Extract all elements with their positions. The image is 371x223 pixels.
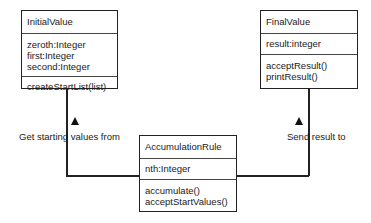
- class-name: AccumulationRule: [140, 136, 236, 158]
- direction-arrow-icon: [295, 117, 303, 125]
- class-methods: accumulate() acceptStartValues(): [140, 179, 236, 212]
- class-final-value: FinalValue result:integer acceptResult()…: [260, 10, 358, 89]
- direction-arrow-icon: [71, 117, 79, 125]
- class-methods: acceptResult() printResult(): [261, 54, 357, 87]
- class-accumulation-rule: AccumulationRule nth:Integer accumulate(…: [139, 135, 237, 212]
- class-name: FinalValue: [261, 11, 357, 33]
- attribute: first:Integer: [27, 50, 112, 61]
- method: printResult(): [266, 71, 352, 82]
- association-label-left: Get starting values from: [19, 131, 120, 142]
- method: acceptResult(): [266, 60, 352, 71]
- class-methods: createStartList(list): [22, 76, 117, 96]
- class-attributes: result:integer: [261, 33, 357, 54]
- method: accumulate(): [145, 185, 231, 196]
- attribute: zeroth:Integer: [27, 39, 112, 50]
- method: acceptStartValues(): [145, 196, 231, 207]
- attribute: second:Integer: [27, 61, 112, 72]
- association-line-left-horizontal: [66, 175, 139, 177]
- method: createStartList(list): [27, 81, 112, 92]
- class-initial-value: InitialValue zeroth:Integer first:Intege…: [21, 10, 118, 89]
- class-attributes: nth:Integer: [140, 158, 236, 179]
- association-label-right: Send result to: [287, 131, 346, 142]
- attribute: nth:Integer: [145, 163, 231, 174]
- association-line-right-horizontal: [237, 175, 309, 177]
- class-attributes: zeroth:Integer first:Integer second:Inte…: [22, 33, 117, 76]
- class-name: InitialValue: [22, 11, 117, 33]
- attribute: result:integer: [266, 38, 352, 49]
